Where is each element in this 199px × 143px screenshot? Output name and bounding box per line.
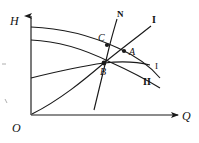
origin-label: O [12,122,21,134]
x-axis-label: Q [182,110,191,122]
curve-N-label: N [117,10,124,19]
left-edge-tick-lower [5,99,7,103]
point-B-label: B [100,67,106,77]
y-axis-label: H [10,15,19,27]
point-C-label: C [98,33,105,43]
curve-efficiency-rising [32,26,151,114]
curve-I-upper-label: I [152,15,156,25]
point-A-label: A [129,47,135,57]
diagram-canvas: H Q O N A B C I I II [0,0,199,143]
point-C-marker [105,43,109,47]
point-A-marker [122,49,126,53]
curve-II-lower-label: II [143,77,151,87]
curve-I-middle-label: I [155,62,158,71]
curve-II-lower [31,62,150,78]
point-B-marker [102,61,107,66]
